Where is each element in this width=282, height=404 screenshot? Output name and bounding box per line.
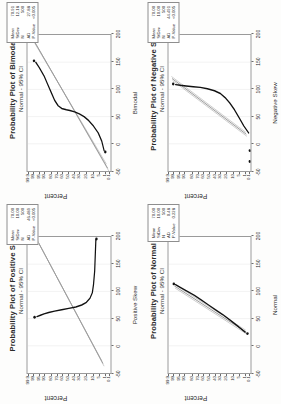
y-tick-label: 50 — [207, 174, 212, 179]
y-tick-mark — [202, 374, 203, 376]
x-tick-mark — [111, 318, 113, 319]
y-tick-label: 0.1 — [107, 174, 112, 180]
stats-value: 0.228 — [170, 208, 175, 218]
y-tick-mark — [249, 172, 250, 174]
data-point-extreme — [172, 282, 174, 285]
y-tick-label: 30 — [77, 174, 82, 179]
stats-key: AD — [165, 33, 170, 39]
stats-value: 44.491 — [165, 6, 170, 19]
y-tick-label: 20 — [84, 174, 89, 179]
plot-area — [167, 34, 252, 172]
y-tick-label: 80 — [49, 174, 54, 179]
stats-key: P-Value — [170, 223, 175, 238]
stats-key: Mean — [150, 28, 155, 38]
y-tick-mark — [219, 374, 220, 376]
stats-value: 70.91 — [9, 6, 14, 16]
y-tick-mark — [104, 172, 105, 174]
x-tick-label: 0 — [254, 345, 260, 348]
y-tick-label: 60 — [60, 376, 65, 381]
y-tick-label: 60 — [201, 174, 206, 179]
x-axis-label: Positive Skew — [130, 236, 137, 374]
y-tick-label: 5 — [237, 174, 242, 176]
x-tick-label: 200 — [254, 30, 260, 38]
stats-row: P-Value<0.005 — [30, 6, 35, 39]
y-tick-mark — [85, 172, 86, 174]
y-tick-mark — [32, 374, 33, 376]
y-tick-mark — [245, 374, 246, 376]
y-tick-mark — [197, 172, 198, 174]
y-tick-mark — [38, 172, 39, 174]
stats-row: AD44.491 — [165, 6, 170, 39]
y-tick-label: 99 — [171, 376, 176, 381]
data-point-extreme — [32, 59, 34, 62]
x-tick-label: 0 — [254, 143, 260, 146]
y-tick-mark — [249, 374, 250, 376]
y-tick-mark — [108, 172, 109, 174]
data-points — [36, 240, 95, 317]
stats-row: AD0.48 — [165, 208, 170, 238]
y-tick-label: 50 — [207, 376, 212, 381]
data-point-extreme — [171, 83, 173, 86]
x-tick-mark — [111, 61, 113, 62]
y-tick-label: 0.1 — [247, 174, 252, 180]
x-axis-ticks: -50050100150200 — [251, 236, 265, 374]
plot-svg — [168, 35, 251, 171]
panel-bimodal: Probability Plot of Bimodal Normal - 95%… — [0, 0, 141, 202]
y-tick-label: 90 — [41, 174, 46, 179]
data-point-extreme — [248, 149, 250, 152]
y-tick-mark — [38, 374, 39, 376]
x-tick-label: -50 — [254, 168, 260, 175]
stats-value: 12.18 — [14, 6, 19, 16]
y-tick-mark — [57, 374, 58, 376]
y-tick-label: 60 — [201, 376, 206, 381]
y-tick-mark — [233, 374, 234, 376]
x-tick-label: -50 — [114, 168, 120, 175]
y-tick-label: 20 — [84, 376, 89, 381]
y-tick-label: 80 — [190, 376, 195, 381]
x-tick-label: -50 — [254, 370, 260, 377]
x-tick-mark — [111, 290, 113, 291]
stats-row: N500 — [19, 208, 24, 241]
y-tick-label: 5 — [237, 376, 242, 378]
stats-row: AD27.88 — [25, 6, 30, 39]
y-tick-label: 50 — [66, 376, 71, 381]
y-tick-mark — [208, 374, 209, 376]
stats-row: Mean70.91 — [9, 6, 14, 39]
x-tick-label: 100 — [114, 85, 120, 93]
stats-row: StDev10.00 — [155, 208, 160, 238]
stats-row: StDev10.00 — [14, 208, 19, 241]
y-tick-label: 20 — [224, 174, 229, 179]
y-axis-label: Percent — [141, 393, 252, 404]
y-tick-label: 10 — [91, 376, 96, 381]
y-tick-mark — [226, 374, 227, 376]
panel-normal: Probability Plot of Normal Normal - 95% … — [141, 202, 282, 404]
ci-band-lower — [174, 288, 246, 334]
x-tick-mark — [251, 235, 253, 236]
y-axis-label: Percent — [141, 191, 252, 203]
y-tick-mark — [245, 172, 246, 174]
plot-area — [26, 34, 111, 172]
y-tick-mark — [79, 374, 80, 376]
x-axis-ticks: -50050100150200 — [111, 236, 125, 374]
y-tick-label: 60 — [60, 174, 65, 179]
y-tick-label: 20 — [224, 376, 229, 381]
stats-value: 10.00 — [155, 6, 160, 16]
stats-key: StDev — [14, 229, 19, 240]
y-tick-label: 99 — [171, 174, 176, 179]
y-tick-mark — [219, 172, 220, 174]
stats-value: 70.00 — [9, 208, 14, 218]
y-axis-ticks: 99.99995908070605040302010510.1 — [26, 172, 111, 191]
y-axis-label: Percent — [0, 393, 111, 404]
y-tick-mark — [74, 172, 75, 174]
stats-value: 27.88 — [25, 6, 30, 16]
stats-key: AD — [25, 33, 30, 39]
x-axis-label: Normal — [270, 236, 277, 374]
y-tick-label: 10 — [231, 174, 236, 179]
x-tick-mark — [111, 171, 113, 172]
x-tick-mark — [111, 235, 113, 236]
stats-box: Mean70.00StDev10.00N500AD46.489P-Value<0… — [6, 204, 38, 245]
y-tick-mark — [168, 172, 169, 174]
y-tick-label: 80 — [49, 376, 54, 381]
x-tick-mark — [251, 143, 253, 144]
stats-key: Mean — [150, 228, 155, 238]
